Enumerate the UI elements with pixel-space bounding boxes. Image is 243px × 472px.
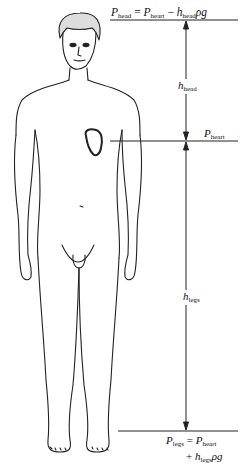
- p-heart-label: Pheart: [204, 128, 225, 141]
- h-head-label: hhead: [178, 79, 197, 94]
- symbol: P: [144, 6, 151, 18]
- heart-shape: [86, 129, 102, 155]
- hair: [59, 13, 100, 40]
- symbol: ρg: [196, 6, 207, 18]
- arrow-up-head: [184, 21, 189, 29]
- symbol: P: [166, 434, 173, 446]
- subscript: head: [183, 12, 196, 20]
- left-arm: [15, 130, 35, 280]
- symbol: ρg: [212, 450, 223, 462]
- subscript: heart: [151, 12, 165, 20]
- left-leg: [38, 258, 79, 452]
- symbol: P: [111, 6, 118, 18]
- subscript: heart: [202, 440, 216, 448]
- operator: =: [187, 434, 193, 446]
- arrow-down-heart: [184, 132, 189, 140]
- arrow-down-feet: [184, 422, 189, 430]
- operator: +: [186, 450, 192, 462]
- hydrostatic-diagram: Phead = Pheart − hheadρg hhead Pheart hl…: [0, 0, 243, 472]
- p-head-equation: Phead = Pheart − hheadρg: [111, 7, 207, 20]
- face: [63, 33, 96, 69]
- subscript: legs: [173, 440, 184, 448]
- operator: =: [134, 6, 141, 18]
- subscript: heart: [211, 133, 225, 141]
- h-legs-label: hlegs: [183, 290, 200, 305]
- arrow-up-heart: [184, 142, 189, 150]
- subscript: head: [184, 85, 197, 93]
- p-legs-equation-line1: Plegs = Pheart: [166, 435, 216, 448]
- subscript: legs: [189, 296, 200, 304]
- right-arm: [122, 130, 141, 280]
- p-legs-equation-line2: + hlegsρg: [186, 451, 223, 464]
- torso: [16, 80, 140, 135]
- human-figure-drawing: [0, 0, 243, 472]
- symbol: P: [204, 127, 211, 139]
- operator: −: [167, 6, 174, 18]
- right-leg: [79, 258, 119, 452]
- subscript: legs: [200, 456, 211, 464]
- subscript: head: [118, 12, 131, 20]
